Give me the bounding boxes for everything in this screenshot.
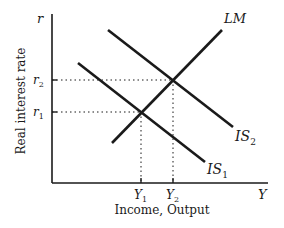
r2-label: r2: [33, 73, 44, 89]
is-lm-diagram: r Y Real interest rate Income, Output r2…: [0, 0, 284, 228]
lm-label: LM: [223, 11, 247, 26]
x-axis-label: Income, Output: [114, 203, 209, 217]
y-axis-label: Real interest rate: [14, 48, 28, 155]
is1-label: IS1: [206, 161, 228, 180]
is2-label: IS2: [234, 128, 256, 147]
y-axis-symbol: r: [37, 11, 44, 26]
r1-label: r1: [33, 105, 44, 121]
y2-label: Y2: [166, 188, 179, 204]
is2-curve: [108, 30, 233, 127]
x-axis-symbol: Y: [258, 187, 268, 202]
y1-label: Y1: [134, 188, 147, 204]
